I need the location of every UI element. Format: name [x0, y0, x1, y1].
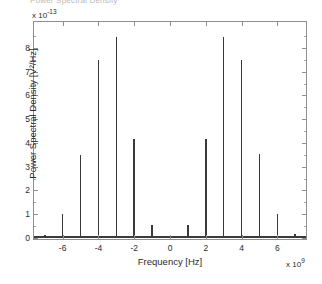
y-axis-minor-tick — [304, 131, 306, 132]
x-axis-tick — [277, 22, 278, 26]
y-axis-tick-label: 5 — [14, 114, 30, 124]
y-axis-tick — [302, 119, 306, 120]
y-axis-tick-label: 6 — [14, 90, 30, 100]
spectral-line — [205, 139, 207, 237]
spectral-line — [241, 60, 243, 237]
spectral-line — [80, 155, 82, 237]
y-axis-tick-label: 3 — [14, 162, 30, 172]
x-axis-tick-label: 0 — [159, 243, 181, 253]
plot-area — [33, 21, 307, 240]
y-axis-minor-tick — [304, 36, 306, 37]
y-axis-tick — [302, 214, 306, 215]
spectral-line — [133, 139, 135, 237]
spectral-line — [116, 37, 118, 237]
y-axis-minor-tick — [304, 155, 306, 156]
y-axis-tick-label: 7 — [14, 67, 30, 77]
spectral-line — [259, 154, 261, 237]
x-axis-tick — [98, 235, 99, 239]
x-axis-exponent: x 109 — [286, 260, 305, 269]
y-axis-minor-tick — [304, 60, 306, 61]
x-axis-tick-label: -2 — [123, 243, 145, 253]
y-axis-exponent-value: -13 — [47, 8, 56, 15]
y-axis-tick — [302, 143, 306, 144]
y-axis-tick — [302, 95, 306, 96]
spectral-line — [44, 235, 46, 237]
spectral-line — [277, 214, 279, 237]
y-axis-minor-tick — [304, 202, 306, 203]
x-axis-tick — [63, 235, 64, 239]
y-axis-minor-tick — [34, 226, 36, 227]
spectral-line — [187, 225, 189, 237]
y-axis-tick-label: 2 — [14, 185, 30, 195]
y-axis-minor-tick — [304, 84, 306, 85]
x-axis-exponent-value: 9 — [301, 257, 305, 264]
spectral-line — [294, 234, 296, 237]
x-axis-tick — [242, 22, 243, 26]
spectral-line — [62, 214, 64, 237]
x-axis-tick — [277, 235, 278, 239]
y-axis-tick — [302, 190, 306, 191]
x-axis-tick — [98, 22, 99, 26]
x-axis-tick-label: 2 — [195, 243, 217, 253]
y-axis-tick-label: 4 — [14, 138, 30, 148]
x-axis-tick — [63, 22, 64, 26]
y-axis-tick — [302, 72, 306, 73]
x-axis-tick — [170, 235, 171, 239]
x-axis-tick-label: 6 — [266, 243, 288, 253]
x-axis-exponent-prefix: x 10 — [286, 260, 301, 269]
spectral-line — [98, 60, 100, 237]
clipped-figure-title: Power Spectral Density — [30, 0, 230, 5]
x-axis-tick — [206, 235, 207, 239]
y-axis-tick — [302, 167, 306, 168]
y-axis-tick — [34, 238, 38, 239]
y-axis-tick — [302, 238, 306, 239]
x-axis-tick — [134, 22, 135, 26]
x-axis-label: Frequency [Hz] — [33, 256, 307, 267]
x-axis-tick — [134, 235, 135, 239]
x-axis-tick-label: 4 — [231, 243, 253, 253]
y-axis-tick-label: 8 — [14, 43, 30, 53]
x-axis-tick — [170, 22, 171, 26]
y-axis-minor-tick — [304, 179, 306, 180]
x-axis-tick-label: -6 — [52, 243, 74, 253]
y-axis-tick — [34, 214, 38, 215]
x-axis-tick — [206, 22, 207, 26]
y-axis-minor-tick — [304, 107, 306, 108]
y-axis-tick-label: 1 — [14, 209, 30, 219]
y-axis-tick — [302, 48, 306, 49]
y-axis-tick-label: 0 — [14, 233, 30, 243]
spectral-line — [151, 225, 153, 237]
x-axis-tick-label: -4 — [87, 243, 109, 253]
y-axis-minor-tick — [304, 226, 306, 227]
x-axis-tick — [242, 235, 243, 239]
psd-figure: Power Spectral Density x 10-13 Power Spe… — [0, 0, 322, 284]
spectral-line — [223, 37, 225, 237]
